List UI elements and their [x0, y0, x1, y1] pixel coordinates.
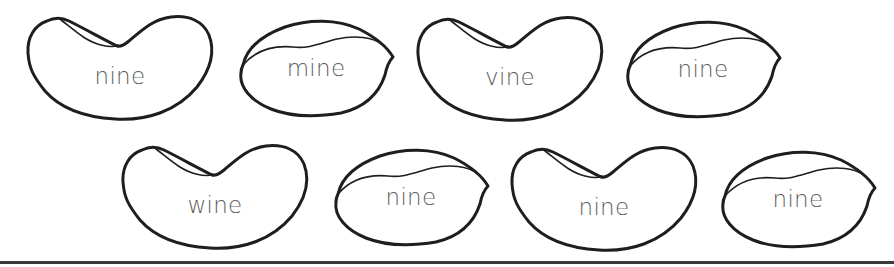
bean-word: vine — [415, 66, 605, 89]
bean-oval-nine[interactable]: nine — [332, 146, 490, 248]
bean-word: wine — [120, 194, 310, 217]
bean-word: mine — [237, 57, 395, 80]
bean-kidney-nine[interactable]: nine — [509, 144, 699, 254]
bean-oval-nine[interactable]: nine — [719, 148, 877, 250]
bean-kidney-wine[interactable]: wine — [120, 142, 310, 252]
bean-word: nine — [25, 65, 215, 88]
bottom-divider-line — [0, 261, 894, 264]
bean-oval-mine[interactable]: mine — [237, 17, 395, 119]
bean-word: nine — [332, 186, 490, 209]
bean-word: nine — [719, 188, 877, 211]
bean-kidney-nine[interactable]: nine — [25, 13, 215, 123]
bean-kidney-vine[interactable]: vine — [415, 14, 605, 124]
bean-oval-nine[interactable]: nine — [624, 18, 782, 120]
bean-word: nine — [509, 196, 699, 219]
bean-word: nine — [624, 58, 782, 81]
